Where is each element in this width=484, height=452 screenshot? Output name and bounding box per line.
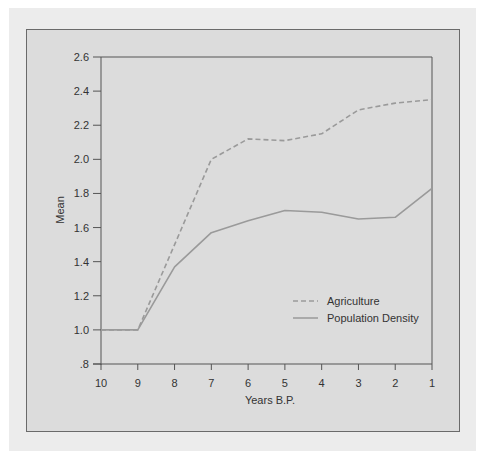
y-tick-label: 2.2	[74, 119, 89, 131]
y-axis-title: Mean	[54, 196, 66, 224]
series-line-population-density	[101, 188, 432, 330]
y-tick-label: 2.6	[74, 51, 89, 63]
x-tick-label: 10	[95, 377, 107, 389]
x-tick-label: 3	[355, 377, 361, 389]
x-tick-label: 9	[135, 377, 141, 389]
y-tick-label: 1.0	[74, 324, 89, 336]
legend-label-population-density: Population Density	[327, 312, 419, 324]
series-line-agriculture	[101, 100, 432, 330]
x-axis-title: Years B.P.	[245, 394, 295, 406]
x-axis-ticks: 10987654321	[95, 364, 435, 389]
y-tick-label: 1.6	[74, 222, 89, 234]
legend: Agriculture Population Density	[293, 295, 419, 324]
y-tick-label: 2.0	[74, 153, 89, 165]
x-tick-label: 2	[392, 377, 398, 389]
line-chart: .81.01.21.41.61.82.02.22.42.6 1098765432…	[0, 0, 484, 452]
y-tick-label: 1.4	[74, 256, 89, 268]
y-axis-ticks: .81.01.21.41.61.82.02.22.42.6	[74, 51, 101, 370]
y-tick-label: 2.4	[74, 85, 89, 97]
x-tick-label: 1	[429, 377, 435, 389]
y-tick-label: 1.2	[74, 290, 89, 302]
x-tick-label: 8	[171, 377, 177, 389]
y-tick-label: .8	[80, 358, 89, 370]
x-tick-label: 5	[282, 377, 288, 389]
x-tick-label: 4	[319, 377, 325, 389]
legend-label-agriculture: Agriculture	[327, 295, 380, 307]
y-tick-label: 1.8	[74, 187, 89, 199]
x-tick-label: 7	[208, 377, 214, 389]
x-tick-label: 6	[245, 377, 251, 389]
data-series	[101, 100, 432, 330]
